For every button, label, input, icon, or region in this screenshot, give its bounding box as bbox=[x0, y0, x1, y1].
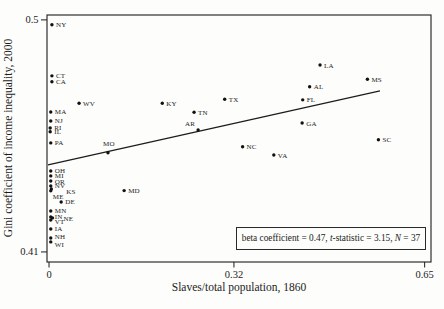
data-point-CT bbox=[50, 74, 53, 77]
point-label-MD: MD bbox=[128, 187, 140, 195]
annotation-text: = 37 bbox=[401, 233, 420, 243]
point-label-SC: SC bbox=[382, 136, 391, 144]
data-point-MN bbox=[49, 209, 52, 212]
data-point-OH bbox=[49, 169, 52, 172]
point-label-VA: VA bbox=[278, 152, 288, 160]
data-point-AL bbox=[308, 85, 311, 88]
point-label-DE: DE bbox=[65, 198, 75, 206]
data-point-WI bbox=[49, 240, 52, 243]
regression-line bbox=[48, 91, 380, 165]
data-point-NY bbox=[50, 23, 53, 26]
data-points: NYCTCAWVKYTNTXARLAMSALFLGANCVASCMANJRIIL… bbox=[48, 21, 391, 249]
data-point-MA bbox=[49, 110, 52, 113]
annotation-text: -statistic = 3.15, bbox=[333, 233, 395, 243]
data-point-NV bbox=[49, 184, 52, 187]
data-point-TX bbox=[223, 98, 226, 101]
scatter-figure: 00.320.650.50.41 Slaves/total population… bbox=[0, 0, 444, 309]
point-label-AR: AR bbox=[185, 120, 195, 128]
data-point-PA bbox=[49, 141, 52, 144]
point-label-NC: NC bbox=[247, 143, 257, 151]
data-point-NH bbox=[49, 236, 52, 239]
plot-frame bbox=[47, 15, 431, 262]
data-point-VA bbox=[272, 153, 275, 156]
data-point-CA bbox=[50, 80, 53, 83]
data-point-MS bbox=[366, 77, 369, 80]
plot-canvas: 00.320.650.50.41 Slaves/total population… bbox=[0, 0, 444, 309]
point-label-WI: WI bbox=[55, 241, 65, 249]
data-point-SC bbox=[377, 138, 380, 141]
point-label-MO: MO bbox=[103, 140, 115, 148]
data-point-MD bbox=[122, 189, 125, 192]
point-label-KS: KS bbox=[66, 188, 75, 196]
point-label-KY: KY bbox=[166, 100, 177, 108]
data-point-IA bbox=[49, 227, 52, 230]
point-label-MA: MA bbox=[55, 108, 67, 116]
data-point-NC bbox=[241, 145, 244, 148]
data-point-MO bbox=[106, 151, 109, 154]
y-tick-label: 0.41 bbox=[20, 246, 38, 257]
data-point-NJ bbox=[49, 119, 52, 122]
data-point-IL bbox=[48, 130, 51, 133]
x-axis-label: Slaves/total population, 1860 bbox=[172, 281, 307, 294]
point-label-NY: NY bbox=[56, 21, 67, 29]
data-point-VT bbox=[49, 218, 52, 221]
point-label-LA: LA bbox=[324, 62, 334, 70]
data-point-MI bbox=[49, 174, 52, 177]
point-label-TX: TX bbox=[229, 96, 239, 104]
y-axis-label: Gini coefficient of income inequality, 2… bbox=[2, 39, 15, 238]
data-point-OR bbox=[49, 179, 52, 182]
data-point-RI bbox=[48, 126, 51, 129]
data-point-FL bbox=[301, 98, 304, 101]
data-point-WV bbox=[77, 101, 80, 104]
data-point-KY bbox=[161, 101, 164, 104]
point-label-AL: AL bbox=[314, 83, 324, 91]
point-label-FL: FL bbox=[307, 96, 316, 104]
point-label-ME: ME bbox=[53, 193, 64, 201]
point-label-NV: NV bbox=[55, 182, 66, 190]
data-point-LA bbox=[318, 63, 321, 66]
point-label-NE: NE bbox=[63, 215, 73, 223]
data-point-TN bbox=[192, 111, 195, 114]
point-label-PA: PA bbox=[55, 139, 64, 147]
y-tick-label: 0.5 bbox=[25, 14, 38, 25]
point-label-MS: MS bbox=[371, 76, 382, 84]
point-label-GA: GA bbox=[306, 120, 317, 128]
point-label-WV: WV bbox=[83, 100, 95, 108]
x-tick-label: 0.65 bbox=[415, 269, 433, 280]
x-tick-label: 0.32 bbox=[225, 269, 243, 280]
annotation-text: beta coefficient = 0.47, bbox=[242, 233, 330, 243]
data-point-GA bbox=[300, 121, 303, 124]
point-label-TN: TN bbox=[198, 109, 208, 117]
x-tick-label: 0 bbox=[46, 269, 51, 280]
data-point-DE bbox=[59, 200, 62, 203]
regression-line-segment bbox=[48, 91, 380, 165]
plot-border bbox=[47, 15, 431, 262]
point-label-CA: CA bbox=[56, 78, 66, 86]
point-label-IL: IL bbox=[54, 128, 61, 136]
data-point-AR bbox=[196, 128, 199, 131]
point-label-NH: NH bbox=[55, 233, 66, 241]
stats-annotation-box: beta coefficient = 0.47, t-statistic = 3… bbox=[236, 227, 426, 250]
